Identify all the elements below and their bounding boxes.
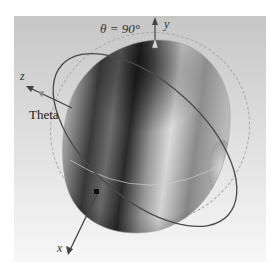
theta-label: Theta bbox=[29, 108, 59, 121]
radiation-pattern-figure: θ = 90° y z Theta x bbox=[0, 0, 278, 272]
axis-y-label: y bbox=[164, 18, 169, 30]
origin-marker bbox=[94, 189, 99, 194]
figure-canvas bbox=[14, 16, 266, 262]
theta-plane-label: θ = 90° bbox=[100, 22, 140, 35]
axis-z-label: z bbox=[20, 70, 25, 82]
axis-x-label: x bbox=[57, 242, 62, 254]
